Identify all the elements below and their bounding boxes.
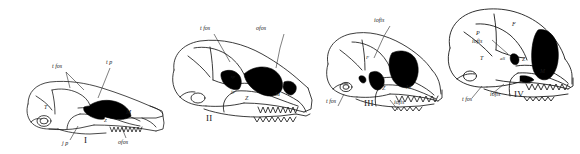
label-Z-4: Z (522, 56, 525, 62)
label-ofos-2: ofos (256, 25, 266, 31)
label-M-2: M (275, 91, 280, 97)
label-M-3: M (406, 84, 411, 90)
label-iofis-4-upper: iofis (472, 38, 482, 44)
label-t-fos-4: t fos (462, 96, 472, 102)
specimen-group-2: t fos ofos tp jp Z M II (168, 36, 316, 124)
skull-comparison-figure: t fos t p T Z M j p ofos I (0, 0, 580, 154)
specimen-numeral-3: III (364, 99, 374, 108)
label-F-4: F (512, 21, 516, 27)
label-t-fos-1: t fos (52, 63, 62, 69)
label-jp-2: jp (231, 89, 235, 94)
shaded-orbit-3 (389, 51, 418, 88)
label-T-4: T (480, 55, 483, 61)
label-aS-4: aS (500, 56, 505, 61)
label-t-fos-2: t fos (200, 25, 210, 31)
skull-drawing-4 (442, 6, 574, 102)
label-M-4: M (540, 68, 545, 74)
label-F-3: F (366, 55, 369, 60)
label-Z-1: Z (104, 118, 107, 123)
specimen-numeral-4: IV (514, 90, 524, 99)
label-t-fos-3: t fos (326, 98, 336, 104)
shaded-foramen-4 (510, 54, 519, 65)
label-M-1: M (126, 109, 131, 115)
label-j-p-1: j p (62, 140, 68, 146)
specimen-numeral-2: II (206, 114, 213, 123)
label-T-1: T (44, 104, 47, 110)
label-Z-3: Z (382, 85, 385, 91)
label-Z-2: Z (245, 95, 248, 101)
specimen-numeral-1: I (84, 136, 87, 145)
label-iofis-3-upper: iofis (374, 17, 384, 23)
skull-drawing-3 (322, 28, 444, 110)
label-iofis-4-lower: iofis (490, 91, 500, 97)
label-ofos-1: ofos (118, 139, 128, 145)
skull-drawing-2 (168, 36, 316, 124)
specimen-group-4: P F iofis T aS Z M iofis t fos IV (442, 6, 574, 102)
specimen-group-1: t fos t p T Z M j p ofos I (22, 74, 172, 140)
label-tp-2: tp (231, 74, 235, 79)
label-iofis-3-lower: iofis (394, 99, 404, 105)
label-P-4: P (476, 30, 480, 36)
specimen-group-3: iofis iofis t fos F Z M III (322, 28, 444, 110)
label-t-p-1: t p (106, 59, 112, 65)
